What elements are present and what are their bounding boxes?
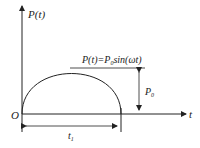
half-sine-curve	[22, 74, 121, 115]
duration-label: t1	[68, 130, 74, 142]
y-axis-label: P(t)	[27, 8, 45, 21]
half-sine-pulse-diagram: P(t) t O P(t)=P0sin(ωt) P0 t1	[0, 0, 200, 148]
origin-label: O	[11, 109, 19, 121]
x-axis-label: t	[189, 108, 193, 120]
curve-equation: P(t)=P0sin(ωt)	[81, 54, 142, 66]
amplitude-label: P0	[144, 86, 154, 98]
